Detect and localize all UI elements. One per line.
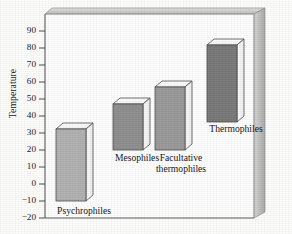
bar-thermophiles-front <box>207 45 237 122</box>
bar-mesophiles[interactable] <box>113 98 150 150</box>
bar-psychrophiles-front <box>56 129 86 201</box>
y-tick-label-0: 0 <box>8 179 36 189</box>
y-axis-ticks <box>39 31 45 218</box>
bar-psychrophiles[interactable] <box>56 123 93 201</box>
bar-mesophiles-front <box>113 104 143 150</box>
bar-mesophiles-side <box>143 98 150 150</box>
y-axis-title: Temperature <box>7 56 18 132</box>
bar-psychrophiles-side <box>86 123 93 201</box>
bar-label-facultative-line1: Facultative <box>144 153 218 163</box>
frame-right-band <box>254 8 265 218</box>
y-tick-label-10: 10 <box>8 162 36 172</box>
bar-label-facultative-line2: thermophiles <box>144 164 218 174</box>
bar-label-thermophiles: Thermophiles <box>196 124 276 134</box>
bar-thermophiles[interactable] <box>207 39 244 122</box>
y-tick-label-80: 80 <box>8 43 36 53</box>
bar-facultative-front <box>155 87 185 150</box>
bar-chart-figure: 90 80 70 60 50 40 30 20 10 0 −10 −20 Tem… <box>0 0 292 234</box>
bar-facultative-thermophiles[interactable] <box>155 81 192 150</box>
y-tick-label-20: 20 <box>8 145 36 155</box>
chart-canvas <box>0 0 292 234</box>
bar-facultative-side <box>185 81 192 150</box>
frame-top-band <box>45 8 265 14</box>
y-tick-label-minus-20: −20 <box>4 213 36 223</box>
y-tick-label-90: 90 <box>8 26 36 36</box>
bar-thermophiles-side <box>237 39 244 122</box>
y-tick-label-minus-10: −10 <box>4 196 36 206</box>
bar-label-psychrophiles: Psychrophiles <box>42 206 126 216</box>
